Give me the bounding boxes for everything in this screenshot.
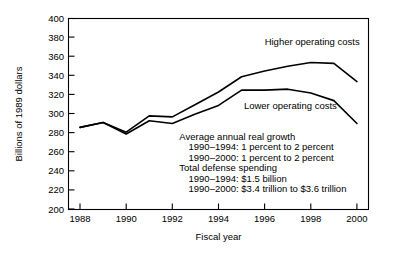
note-line-2: 1990–1994: 1 percent to 2 percent bbox=[189, 141, 335, 152]
y-tick-label-360: 360 bbox=[48, 51, 64, 62]
lower-operating-costs-label: Lower operating costs bbox=[244, 100, 337, 111]
higher-operating-costs-label: Higher operating costs bbox=[265, 36, 360, 47]
x-tick-label-1994: 1994 bbox=[208, 213, 229, 224]
y-tick-label-240: 240 bbox=[48, 165, 64, 176]
y-tick-label-340: 340 bbox=[48, 70, 64, 81]
y-tick-label-280: 280 bbox=[48, 127, 64, 138]
note-line-3: 1990–2000: 1 percent to 2 percent bbox=[189, 152, 335, 163]
x-tick-label-1988: 1988 bbox=[69, 213, 90, 224]
note-line-5: 1990–1994: $1.5 billion bbox=[189, 173, 287, 184]
y-tick-label-300: 300 bbox=[48, 108, 64, 119]
x-tick-label-1990: 1990 bbox=[116, 213, 137, 224]
y-tick-label-220: 220 bbox=[48, 184, 64, 195]
note-line-6: 1990–2000: $3.4 trillion to $3.6 trillio… bbox=[189, 183, 347, 194]
y-tick-label-200: 200 bbox=[48, 204, 64, 215]
x-tick-label-1992: 1992 bbox=[162, 213, 183, 224]
note-line-4: Total defense spending bbox=[179, 162, 277, 173]
y-axis-title: Billions of 1989 dollars bbox=[13, 66, 24, 161]
chart-canvas: 400 380 360 340 320 300 280 260 240 220 … bbox=[0, 0, 393, 256]
chart-figure: 400 380 360 340 320 300 280 260 240 220 … bbox=[0, 0, 393, 256]
y-tick-label-320: 320 bbox=[48, 89, 64, 100]
y-tick-label-400: 400 bbox=[48, 13, 64, 24]
x-tick-label-1996: 1996 bbox=[254, 213, 275, 224]
x-tick-label-1998: 1998 bbox=[300, 213, 321, 224]
x-tick-label-2000: 2000 bbox=[346, 213, 367, 224]
x-axis-title: Fiscal year bbox=[196, 231, 242, 242]
y-tick-label-260: 260 bbox=[48, 146, 64, 157]
note-line-1: Average annual real growth bbox=[179, 131, 295, 142]
y-tick-label-380: 380 bbox=[48, 32, 64, 43]
